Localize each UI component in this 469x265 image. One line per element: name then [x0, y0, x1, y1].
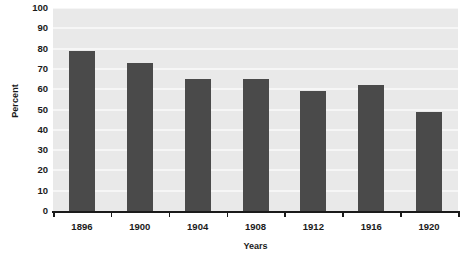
y-axis-tick-label: 80 — [37, 44, 48, 54]
x-axis-tick — [169, 211, 171, 217]
y-axis-tick-label: 50 — [37, 105, 48, 115]
y-axis-tick-label: 10 — [37, 186, 48, 196]
y-axis-tick-labels: 1009080706050403020100 — [12, 8, 48, 211]
bar[interactable] — [416, 112, 442, 211]
y-axis-tick-label: 0 — [43, 206, 48, 216]
x-axis-tick-labels: 1896190019041908191219161920 — [53, 221, 458, 232]
x-axis-title: Years — [53, 241, 458, 251]
bar-slot — [111, 8, 169, 211]
x-axis-tick — [342, 211, 344, 217]
x-axis-tick-label: 1904 — [169, 221, 227, 232]
y-axis-tick-label: 90 — [37, 24, 48, 34]
x-axis-tick-label: 1900 — [111, 221, 169, 232]
y-axis-tick-label: 70 — [37, 64, 48, 74]
x-axis-tick — [227, 211, 229, 217]
bar[interactable] — [185, 79, 211, 211]
bar[interactable] — [69, 51, 95, 211]
x-axis-tick — [111, 211, 113, 217]
x-axis-tick — [284, 211, 286, 217]
bar-chart: Percent 1009080706050403020100 189619001… — [0, 0, 469, 265]
x-axis-tick — [400, 211, 402, 217]
y-axis-tick-label: 20 — [37, 166, 48, 176]
x-axis-line — [52, 211, 459, 213]
bar[interactable] — [358, 85, 384, 211]
x-axis-tick-label: 1896 — [53, 221, 111, 232]
bar-slot — [53, 8, 111, 211]
bar[interactable] — [300, 91, 326, 211]
y-axis-tick-label: 60 — [37, 84, 48, 94]
bar-slot — [342, 8, 400, 211]
x-axis-tick-label: 1920 — [400, 221, 458, 232]
y-axis-tick-label: 100 — [32, 3, 48, 13]
x-axis-tick-label: 1912 — [284, 221, 342, 232]
plot-area — [53, 8, 458, 211]
bar-slot — [169, 8, 227, 211]
y-axis-tick-label: 30 — [37, 145, 48, 155]
bar-slot — [284, 8, 342, 211]
bar-slot — [227, 8, 285, 211]
bars-group — [53, 8, 458, 211]
bar[interactable] — [127, 63, 153, 211]
x-axis-tick — [458, 211, 460, 217]
x-axis-tick-label: 1908 — [227, 221, 285, 232]
x-axis-tick-label: 1916 — [342, 221, 400, 232]
x-axis-tick — [53, 211, 55, 217]
bar[interactable] — [243, 79, 269, 211]
y-axis-tick-label: 40 — [37, 125, 48, 135]
bar-slot — [400, 8, 458, 211]
